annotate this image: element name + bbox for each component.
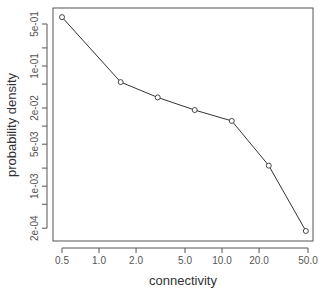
series-line xyxy=(62,17,306,231)
line-chart: 0.51.02.05.010.020.050.0 5e-011e-012e-02… xyxy=(0,0,323,294)
x-axis: 0.51.02.05.010.020.050.0 xyxy=(55,248,318,266)
data-point-marker xyxy=(155,95,160,100)
y-tick-label: 5e-01 xyxy=(29,11,40,37)
data-point-marker xyxy=(192,108,197,113)
x-tick-label: 0.5 xyxy=(55,255,69,266)
x-tick-label: 10.0 xyxy=(212,255,232,266)
data-point-marker xyxy=(266,163,271,168)
plot-box xyxy=(53,8,313,241)
x-tick-label: 50.0 xyxy=(298,255,318,266)
x-axis-title: connectivity xyxy=(149,273,217,288)
x-tick-label: 2.0 xyxy=(129,255,143,266)
y-tick-label: 5e-03 xyxy=(29,131,40,157)
y-axis: 5e-011e-012e-025e-031e-032e-04 xyxy=(29,11,47,241)
data-point-marker xyxy=(118,80,123,85)
y-tick-label: 1e-01 xyxy=(29,53,40,79)
data-series xyxy=(60,15,309,234)
x-tick-label: 20.0 xyxy=(249,255,269,266)
y-tick-label: 1e-03 xyxy=(29,173,40,199)
y-tick-label: 2e-04 xyxy=(29,215,40,241)
y-axis-title: probability density xyxy=(4,72,19,177)
y-tick-label: 2e-02 xyxy=(29,95,40,121)
x-tick-label: 1.0 xyxy=(92,255,106,266)
x-tick-label: 5.0 xyxy=(178,255,192,266)
data-point-marker xyxy=(229,118,234,123)
data-point-marker xyxy=(303,228,308,233)
data-point-marker xyxy=(60,15,65,20)
